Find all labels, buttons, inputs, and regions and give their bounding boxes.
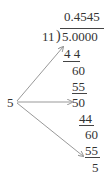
arrows (0, 0, 109, 186)
arrow-to-first-remainder (17, 47, 63, 101)
arrow-to-last-remainder (17, 103, 83, 156)
